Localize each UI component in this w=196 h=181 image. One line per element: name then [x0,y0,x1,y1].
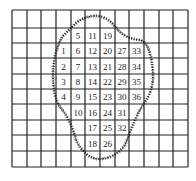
cell-number: 21 [103,62,112,72]
cell-number: 13 [88,62,98,72]
cell-number: 1 [61,46,66,56]
cell-number: 8 [76,77,81,87]
cell-number: 11 [88,31,97,41]
cell-number: 27 [118,46,128,56]
grid-lines [12,10,188,167]
cell-number: 15 [88,92,98,102]
cell-number: 3 [61,77,66,87]
cell-number: 9 [76,92,81,102]
cell-number: 17 [88,123,98,133]
cell-number: 31 [118,108,127,118]
cell-number: 28 [118,62,128,72]
cell-number: 34 [132,62,142,72]
cell-number: 19 [103,31,113,41]
cell-number: 16 [88,108,98,118]
cell-number: 23 [103,92,113,102]
cell-number: 24 [103,108,113,118]
cell-number: 36 [132,92,142,102]
cell-number: 29 [118,77,128,87]
cell-number: 35 [132,77,142,87]
cell-number: 25 [103,123,113,133]
cell-number: 33 [132,46,142,56]
cell-number: 7 [76,62,81,72]
grid-diagram: 5111916122027332713212834381422293549152… [0,0,196,181]
cell-number: 10 [74,108,84,118]
cell-number: 6 [76,46,81,56]
cell-number: 4 [61,92,66,102]
cell-number: 30 [118,92,128,102]
cell-number: 20 [103,46,113,56]
cell-number: 26 [103,139,113,149]
cell-number: 18 [88,139,98,149]
cell-number: 2 [61,62,66,72]
cell-number: 12 [88,46,97,56]
cell-number: 5 [76,31,81,41]
cell-number: 22 [103,77,112,87]
cell-number: 14 [88,77,98,87]
cell-number: 32 [118,123,127,133]
